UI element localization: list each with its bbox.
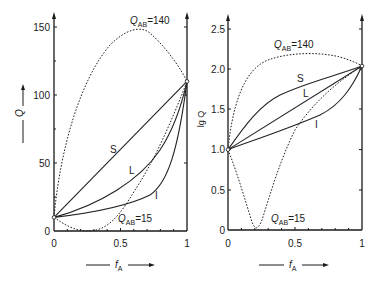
right-label-L: L	[303, 88, 309, 99]
left-label-S: S	[110, 144, 117, 155]
right-x-label-text: fA	[289, 259, 297, 272]
left-chart: 150 100 50 0 0 0.5 1 Q fA Q	[14, 12, 190, 272]
right-y-label: lg Q	[196, 111, 206, 128]
left-right-axis-arrow-icon	[185, 12, 189, 19]
left-curve-QAB15	[54, 81, 187, 231]
left-start-point	[52, 216, 56, 220]
left-x-tick-0: 0	[51, 238, 57, 249]
right-y-tick-2.5: 2.5	[211, 24, 225, 35]
arrow-right-icon	[323, 263, 329, 267]
left-y-label: Q	[14, 84, 25, 143]
arrow-right-icon	[149, 263, 155, 267]
right-x-tick-0.5: 0.5	[288, 238, 302, 249]
right-curve-QAB15	[228, 66, 362, 228]
right-y-tick-1.0: 1.0	[211, 144, 225, 155]
right-y-tick-1.5: 1.5	[211, 104, 225, 115]
left-x-label-text: fA	[115, 259, 123, 272]
left-x-label: fA	[86, 259, 155, 272]
left-y-tick-50: 50	[39, 158, 51, 169]
right-y-tick-2.0: 2.0	[211, 64, 225, 75]
left-curve-S	[54, 81, 187, 217]
left-y-tick-0: 0	[44, 226, 50, 237]
right-curve-QAB140	[228, 54, 362, 150]
right-label-qab140: QAB=140	[274, 39, 314, 52]
left-curve-QAB140	[54, 29, 187, 217]
right-curve-L	[228, 66, 362, 150]
right-chart: 2.5 2.0 1.5 1.0 0.5 0 0 0.5 1 lg Q fA QA…	[196, 14, 365, 272]
left-y-tick-150: 150	[33, 22, 50, 33]
left-label-qab140: QAB=140	[130, 15, 170, 28]
right-right-axis-arrow-icon	[360, 14, 364, 21]
right-y-axis-arrow-icon	[226, 14, 230, 21]
left-x-tick-0.5: 0.5	[114, 238, 128, 249]
arrow-up-icon	[21, 84, 25, 90]
figure: 150 100 50 0 0 0.5 1 Q fA Q	[0, 0, 379, 285]
right-label-qab15: QAB=15	[271, 213, 306, 226]
right-x-label: fA	[259, 259, 329, 272]
left-y-tick-100: 100	[33, 90, 50, 101]
left-y-label-text: Q	[14, 109, 25, 117]
left-label-L: L	[129, 165, 135, 176]
right-start-point	[226, 148, 230, 152]
left-label-qab15: QAB=15	[118, 213, 153, 226]
left-label-I: I	[155, 190, 158, 201]
left-x-tick-1: 1	[184, 238, 190, 249]
right-x-tick-1: 1	[359, 238, 365, 249]
left-y-axis-arrow-icon	[52, 12, 56, 19]
right-y-ticks	[228, 29, 362, 190]
right-y-tick-0: 0	[219, 225, 225, 236]
right-label-S: S	[297, 73, 304, 84]
right-y-tick-0.5: 0.5	[211, 185, 225, 196]
right-x-tick-0: 0	[225, 238, 231, 249]
right-end-point	[360, 64, 364, 68]
right-label-I: I	[315, 119, 318, 130]
left-end-point	[185, 80, 189, 84]
